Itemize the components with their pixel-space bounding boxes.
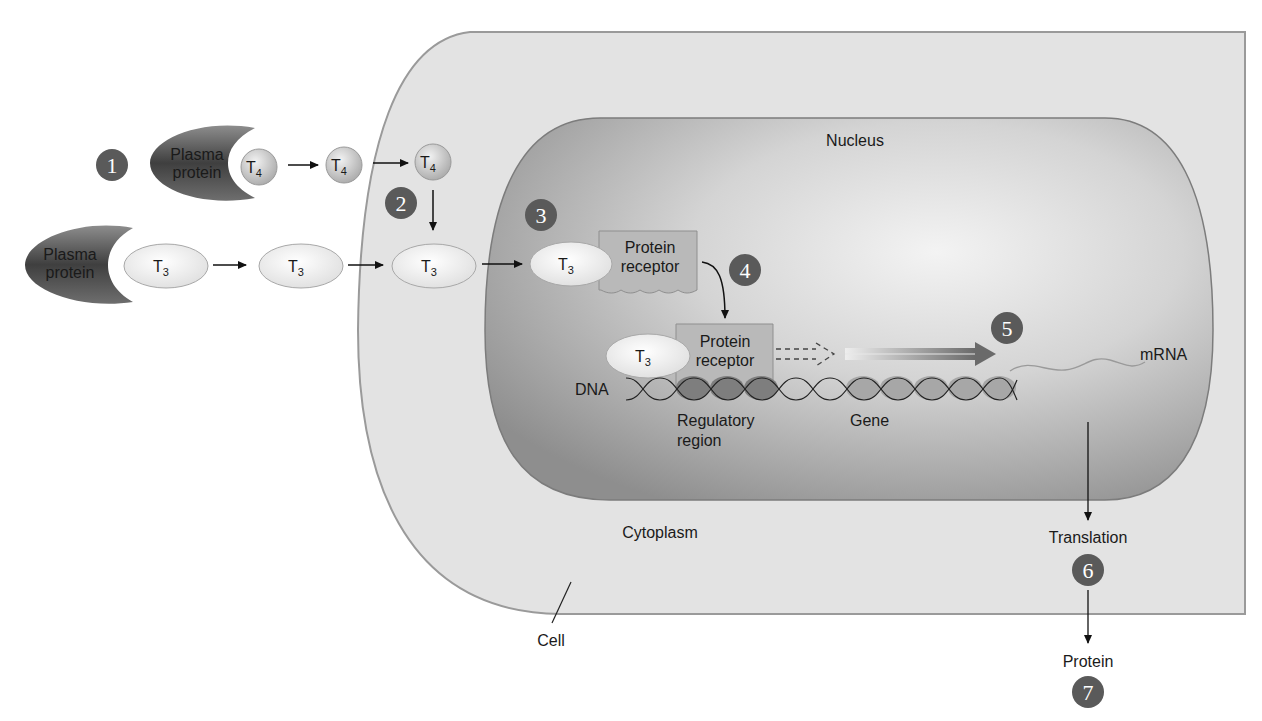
step-3-number: 3: [536, 203, 547, 228]
t3-molecule-bound: T3: [124, 244, 208, 288]
plasma-protein-2-label-line2: protein: [46, 264, 95, 281]
gene-label: Gene: [850, 412, 889, 429]
dna-label: DNA: [575, 381, 609, 398]
receptor-1-label-line1: Protein: [625, 239, 676, 256]
receptor-1-label-line2: receptor: [621, 258, 680, 275]
plasma-protein-2-label-line1: Plasma: [43, 246, 96, 263]
nucleus-label: Nucleus: [826, 132, 884, 149]
translation-label: Translation: [1049, 529, 1128, 546]
step-6-number: 6: [1083, 558, 1094, 583]
step-2-number: 2: [396, 191, 407, 216]
cytoplasm-label: Cytoplasm: [622, 524, 698, 541]
gene-bead: [982, 376, 1016, 400]
plasma-protein-1-label-line2: protein: [173, 164, 222, 181]
regulatory-region-label-line2: region: [677, 432, 721, 449]
t3-receptor-complex: T3: [606, 334, 690, 378]
nucleus: [485, 118, 1213, 500]
regulatory-region-label-line1: Regulatory: [677, 412, 754, 429]
t3-molecule-free: T3: [259, 244, 343, 288]
t4-molecule-intracellular: T4: [415, 144, 451, 180]
receptor-2-label-line2: receptor: [696, 352, 755, 369]
step-7-number: 7: [1083, 680, 1094, 705]
receptor-2-label-line1: Protein: [700, 333, 751, 350]
plasma-protein-1-label-line1: Plasma: [170, 146, 223, 163]
t3-molecule-nucleus: T3: [530, 242, 612, 286]
thyroid-hormone-diagram: Nucleus Cytoplasm Cell 1 Plasma protein …: [0, 0, 1262, 721]
protein-label: Protein: [1063, 653, 1114, 670]
cell-label: Cell: [537, 632, 565, 649]
step-5-number: 5: [1002, 316, 1013, 341]
step-1-number: 1: [107, 153, 118, 178]
step-4-number: 4: [740, 258, 751, 283]
t4-molecule-free: T4: [326, 147, 362, 183]
mrna-label: mRNA: [1140, 346, 1187, 363]
t3-molecule-cytoplasm: T3: [392, 244, 476, 288]
t4-molecule-bound: T4: [241, 149, 277, 185]
